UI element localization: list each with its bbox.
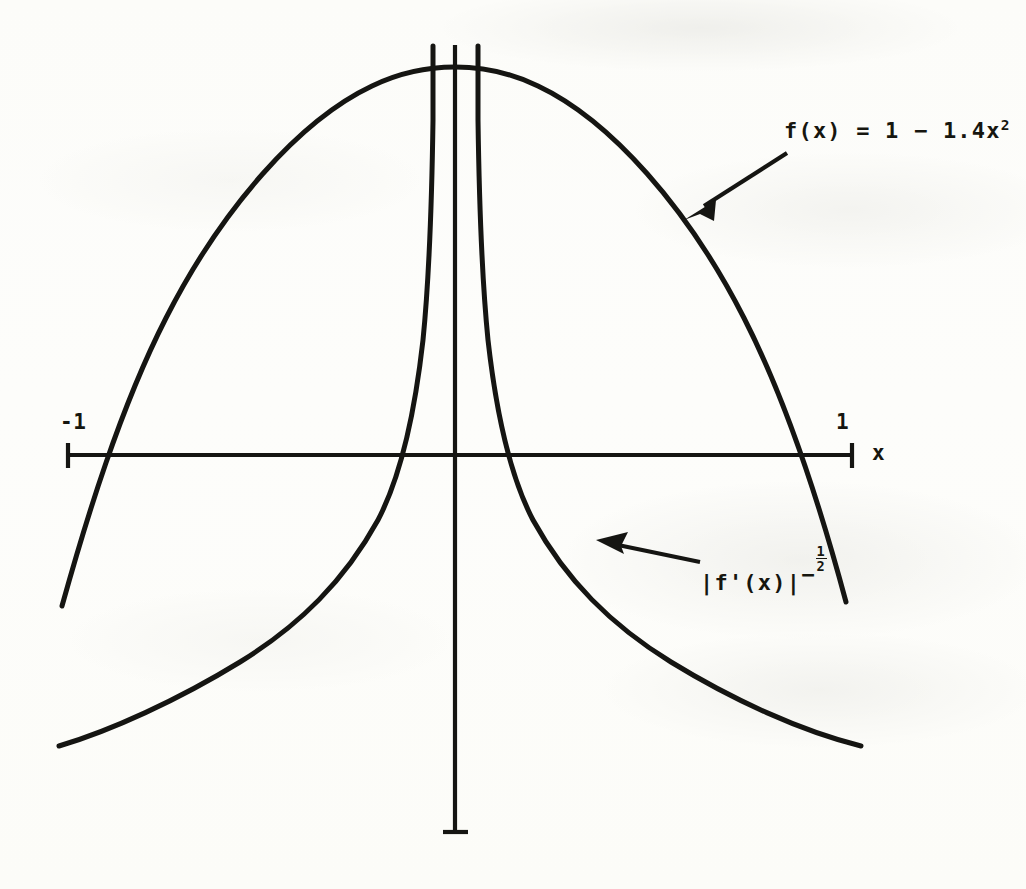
arrowhead-derivative [596, 532, 628, 554]
x-tick-label-one: 1 [836, 410, 849, 434]
leader-line-function [704, 153, 787, 206]
leader-line-derivative [618, 545, 700, 562]
derivative-exponent-fraction: 12 [816, 544, 827, 574]
function-label-exponent: 2 [1001, 117, 1010, 133]
arrowhead-function [684, 200, 716, 221]
x-axis-label: x [872, 441, 885, 465]
annotation-label-function: f(x) = 1 − 1.4x2 [784, 117, 1009, 143]
y-axis [443, 45, 468, 833]
derivative-exponent-denominator: 2 [816, 559, 827, 573]
derivative-exponent-minus-sign: − [801, 562, 815, 587]
annotation-arrow-derivative [596, 532, 700, 562]
x-axis [67, 443, 853, 468]
function-label-body: f(x) = 1 − 1.4x [784, 118, 1001, 143]
derivative-exponent-numerator: 1 [816, 544, 827, 559]
curve-derivative-left-branch [59, 46, 433, 746]
annotation-label-derivative: |f'(x)|−12 [700, 546, 827, 595]
figure-page: -1 1 x f(x) = 1 − 1.4x2 |f'(x)|−12 [0, 0, 1026, 889]
derivative-label-body: |f'(x)| [700, 570, 801, 595]
x-tick-label-minus-one: -1 [60, 410, 86, 434]
annotation-arrow-function [684, 153, 787, 221]
derivative-label-exponent: −12 [801, 546, 827, 587]
curve-derivative-power [59, 46, 861, 746]
curve-derivative-right-branch [478, 46, 861, 746]
